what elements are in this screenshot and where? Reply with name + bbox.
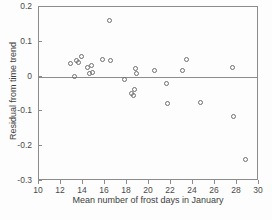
data-point xyxy=(230,65,235,70)
data-point xyxy=(165,101,170,106)
x-tick-label: 16 xyxy=(99,185,108,195)
x-tick-mark xyxy=(104,180,105,184)
data-point xyxy=(108,58,113,63)
x-tick-label: 10 xyxy=(33,185,42,195)
scatter-plot-figure: Residual from time trend 0.20.10-0.1-0.2… xyxy=(0,0,272,220)
data-point xyxy=(72,74,77,79)
x-tick-label: 20 xyxy=(143,185,152,195)
data-point xyxy=(90,70,95,75)
x-tick-mark xyxy=(236,180,237,184)
data-point xyxy=(164,81,169,86)
x-axis-label: Mean number of frost days in January xyxy=(38,195,258,205)
y-tick-label: 0.1 xyxy=(20,36,32,46)
x-tick-label: 28 xyxy=(231,185,240,195)
data-point xyxy=(134,71,139,76)
x-tick-mark xyxy=(214,180,215,184)
x-tick-label: 14 xyxy=(77,185,86,195)
data-point xyxy=(107,18,112,23)
data-point xyxy=(198,100,203,105)
data-point xyxy=(132,87,137,92)
data-point xyxy=(131,93,136,98)
data-point xyxy=(180,68,185,73)
y-tick-label: -0.2 xyxy=(17,140,32,150)
x-tick-label: 26 xyxy=(209,185,218,195)
y-tick-label: -0.3 xyxy=(17,175,32,185)
x-tick-label: 24 xyxy=(187,185,196,195)
x-tick-label: 22 xyxy=(165,185,174,195)
data-point xyxy=(76,60,81,65)
data-point xyxy=(231,114,236,119)
data-point xyxy=(243,157,248,162)
x-tick-mark xyxy=(126,180,127,184)
y-tick-label: -0.1 xyxy=(17,105,32,115)
y-tick-label: 0.2 xyxy=(20,1,32,11)
data-point xyxy=(79,54,84,59)
x-tick-mark xyxy=(258,180,259,184)
data-point xyxy=(184,57,189,62)
plot-frame xyxy=(38,6,258,180)
data-point xyxy=(122,77,127,82)
data-point xyxy=(133,66,138,71)
x-tick-label: 30 xyxy=(253,185,262,195)
x-tick-mark xyxy=(192,180,193,184)
data-point xyxy=(100,57,105,62)
x-tick-mark xyxy=(148,180,149,184)
x-tick-mark xyxy=(82,180,83,184)
y-axis-ticks: 0.20.10-0.1-0.2-0.3 xyxy=(0,6,38,180)
data-point xyxy=(89,63,94,68)
plot-area xyxy=(39,7,257,179)
x-tick-label: 12 xyxy=(55,185,64,195)
y-tick-label: 0 xyxy=(27,71,32,81)
data-point xyxy=(68,61,73,66)
x-tick-mark xyxy=(38,180,39,184)
data-point xyxy=(152,68,157,73)
x-tick-label: 18 xyxy=(121,185,130,195)
x-tick-mark xyxy=(170,180,171,184)
x-tick-mark xyxy=(60,180,61,184)
